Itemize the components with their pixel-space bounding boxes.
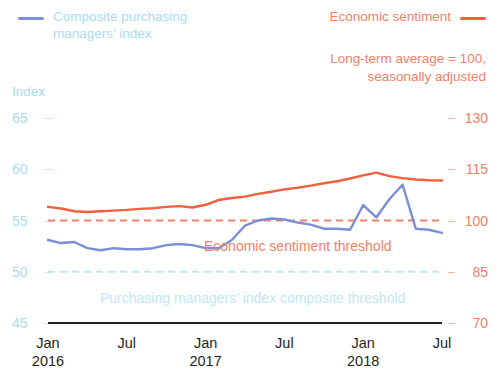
- series-line-economic-sentiment: [48, 173, 442, 212]
- annotation-economic-sentiment-threshold: Economic sentiment threshold: [204, 238, 392, 254]
- plot-area: [0, 0, 500, 383]
- chart-container: Composite purchasing managers’ index Eco…: [0, 0, 500, 383]
- annotation-pmi-composite-threshold: Purchasing managers’ index composite thr…: [100, 290, 405, 306]
